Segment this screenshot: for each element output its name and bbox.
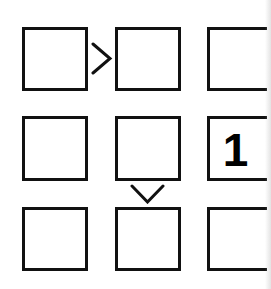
greater-than-down-sign	[130, 184, 165, 204]
cell-r3c3[interactable]	[207, 207, 267, 271]
cell-r1c1[interactable]	[22, 27, 88, 91]
cell-r2c2[interactable]	[115, 116, 181, 181]
cell-r1c2[interactable]	[115, 27, 181, 91]
cell-r2c1[interactable]	[22, 116, 88, 181]
cell-r3c2[interactable]	[115, 207, 181, 271]
cell-r3c1[interactable]	[22, 207, 88, 271]
cell-r1c3[interactable]	[207, 27, 267, 91]
cell-value: 1	[223, 127, 249, 173]
page-edge-shadow	[265, 0, 271, 289]
cell-r2c3[interactable]: 1	[207, 116, 267, 181]
greater-than-sign	[91, 42, 113, 75]
